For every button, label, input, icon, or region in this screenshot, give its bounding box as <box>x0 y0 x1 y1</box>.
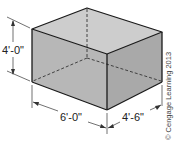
height-label: 4'-0" <box>2 44 24 56</box>
length-label: 6'-0" <box>60 111 82 123</box>
copyright-text: © Cengage Learning 2013 <box>164 52 173 140</box>
width-label: 4'-6" <box>122 111 144 123</box>
box-diagram: 4'-0" 6'-0" 4'-6" © Cengage Learning 201… <box>0 0 175 143</box>
